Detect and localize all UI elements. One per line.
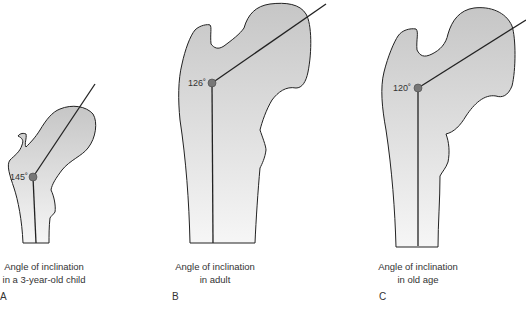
caption-c: Angle of inclination in old age — [373, 260, 463, 286]
panel-letter-b: B — [172, 291, 179, 302]
caption-a: Angle of inclination in a 3-year-old chi… — [2, 260, 86, 286]
femur-a: 145˚ — [8, 84, 95, 243]
caption-b-line1: Angle of inclination — [170, 260, 260, 273]
caption-c-line2: in old age — [373, 273, 463, 286]
panel-letter-c: C — [379, 291, 386, 302]
panel-letter-a: A — [0, 291, 7, 302]
angle-label-b: 126˚ — [188, 78, 206, 88]
femur-c: 120˚ — [382, 8, 526, 247]
femur-b: 126˚ — [179, 3, 326, 243]
caption-b-line2: in adult — [170, 273, 260, 286]
caption-a-line2: in a 3-year-old child — [2, 273, 86, 286]
angle-label-a: 145˚ — [10, 172, 28, 182]
angle-label-c: 120˚ — [393, 83, 411, 93]
caption-a-line1: Angle of inclination — [2, 260, 86, 273]
caption-b: Angle of inclination in adult — [170, 260, 260, 286]
caption-c-line1: Angle of inclination — [373, 260, 463, 273]
